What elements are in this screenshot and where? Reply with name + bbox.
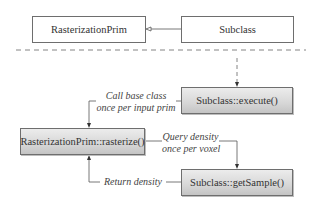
subclass-label: Subclass [219,24,256,35]
get-sample-label: Subclass::getSample() [190,177,284,188]
call-base-line2: once per input prim [96,102,176,114]
base-class-box: RasterizationPrim [32,16,146,43]
return-density-text: Return density [104,176,162,187]
rasterize-label: RasterizationPrim::rasterize() [20,136,144,147]
query-line1: Query density [162,131,219,143]
query-density-annotation: Query density once per voxel [162,131,219,155]
call-base-class-annotation: Call base class once per input prim [96,90,176,114]
base-class-label: RasterizationPrim [51,24,127,35]
subclass-box: Subclass [181,16,294,43]
execute-label: Subclass::execute() [196,95,278,106]
get-sample-box: Subclass::getSample() [181,169,293,196]
call-base-line1: Call base class [96,90,176,102]
execute-box: Subclass::execute() [181,87,293,114]
query-line2: once per voxel [162,143,219,155]
rasterize-box: RasterizationPrim::rasterize() [20,128,145,155]
return-density-annotation: Return density [101,176,165,188]
